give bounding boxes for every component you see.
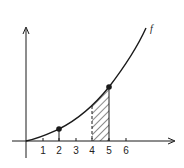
x-tick-label-6: 6 xyxy=(123,145,129,156)
x-tick-label-2: 2 xyxy=(56,145,62,156)
x-tick-label-1: 1 xyxy=(40,145,46,156)
x-tick-label-4: 4 xyxy=(89,145,95,156)
point-at-x-5 xyxy=(106,84,112,90)
function-graph: 1 2 3 4 5 6 f xyxy=(0,0,184,168)
shaded-area-4-to-5 xyxy=(92,87,109,141)
function-curve-f xyxy=(26,28,146,141)
function-label: f xyxy=(150,23,154,34)
x-tick-label-5: 5 xyxy=(106,145,112,156)
x-tick-label-3: 3 xyxy=(73,145,79,156)
point-at-x-2 xyxy=(56,126,62,132)
